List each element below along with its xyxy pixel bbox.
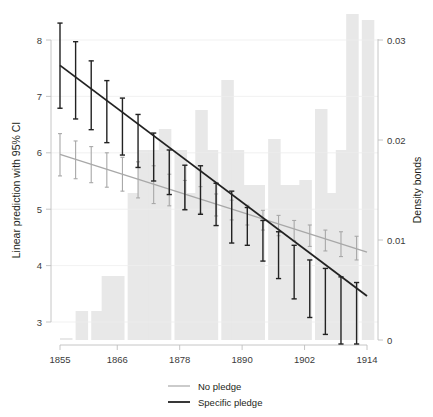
histogram-bar (112, 276, 124, 340)
left-axis-ticks: 345678 (37, 35, 51, 328)
histogram-bar (76, 311, 88, 340)
x-tick-label: 1878 (169, 354, 190, 365)
x-tick-label: 1855 (49, 354, 70, 365)
y-tick-label: 3 (37, 317, 42, 328)
y-tick-label: 6 (37, 147, 42, 158)
chart-figure: 345678 00.010.020.03 1855186618781890190… (0, 0, 433, 417)
left-axis-title: Linear prediction with 95% CI (10, 122, 22, 259)
y-tick-label: 4 (37, 260, 42, 271)
histogram-bar (60, 338, 72, 340)
y2-tick-label: 0.03 (387, 35, 406, 46)
x-axis: 185518661878189019021914 (49, 345, 377, 365)
left-axis: 345678 (37, 35, 51, 328)
y-tick-label: 5 (37, 204, 42, 215)
chart-legend: No pledgeSpecific pledge (168, 381, 262, 408)
x-tick-label: 1902 (294, 354, 315, 365)
legend-label: No pledge (198, 381, 241, 392)
right-axis: 00.010.020.03 (378, 35, 406, 346)
x-tick-label: 1890 (232, 354, 253, 365)
right-axis-title: Density bonds (411, 157, 423, 224)
y2-tick-label: 0 (387, 335, 392, 346)
legend-label: Specific pledge (198, 397, 262, 408)
chart-svg: 345678 00.010.020.03 1855186618781890190… (0, 0, 433, 417)
x-axis-ticks: 185518661878189019021914 (49, 345, 377, 365)
y-tick-label: 8 (37, 35, 42, 46)
x-tick-label: 1914 (356, 354, 377, 365)
y2-tick-label: 0.02 (387, 135, 406, 146)
right-axis-ticks: 00.010.020.03 (378, 35, 406, 346)
histogram-bar (253, 185, 265, 340)
histogram-bar (362, 20, 374, 340)
y-tick-label: 7 (37, 91, 42, 102)
y2-tick-label: 0.01 (387, 235, 406, 246)
x-tick-label: 1866 (107, 354, 128, 365)
